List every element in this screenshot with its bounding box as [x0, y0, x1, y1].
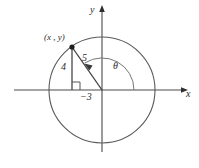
angle-theta-label: θ — [113, 61, 118, 71]
angle-arc — [85, 58, 134, 90]
terminal-point-dot — [69, 44, 74, 49]
y-axis-label: y — [90, 5, 94, 15]
hypotenuse-segment — [72, 47, 102, 90]
y-axis-arrowhead — [99, 5, 105, 12]
trig-diagram-figure: y x (x , y) 4 5 −3 θ — [0, 0, 199, 168]
x-axis-label: x — [186, 89, 190, 99]
horizontal-leg-label: −3 — [80, 92, 92, 102]
right-angle-square-icon — [72, 82, 80, 90]
diagram-canvas — [0, 0, 199, 168]
vertical-leg-label: 4 — [61, 62, 66, 72]
hypotenuse-label: 5 — [82, 53, 87, 63]
terminal-point-label: (x , y) — [44, 33, 65, 42]
